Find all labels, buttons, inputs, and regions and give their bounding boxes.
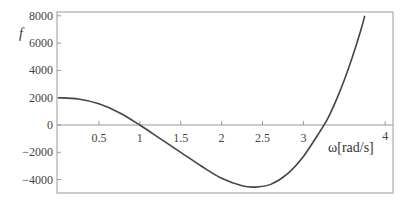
y-tick-label: 2000 [29,91,53,105]
x-tick-label: 2 [219,131,225,145]
y-ticks: 80006000400020000−2000−4000 [22,9,61,187]
x-tick-label: 1 [137,131,143,145]
x-tick-label: 0.5 [91,131,106,145]
y-tick-label: −4000 [22,173,53,187]
y-tick-label: 4000 [29,63,53,77]
x-tick-label: 1.5 [173,131,188,145]
x-tick-label: 3 [300,131,306,145]
data-curve [58,16,365,187]
y-axis-title: f [19,26,25,41]
x-axis-title: ω[rad/s] [328,140,374,155]
plot-frame [57,12,393,193]
y-tick-label: −2000 [22,145,53,159]
y-tick-label: 6000 [29,36,53,50]
chart: 80006000400020000−2000−4000 0.511.522.53… [0,0,406,204]
x-tick-label: 2.5 [255,131,270,145]
y-tick-label: 8000 [29,9,53,23]
y-tick-label: 0 [47,118,53,132]
x-tick-label: 4 [382,129,388,143]
